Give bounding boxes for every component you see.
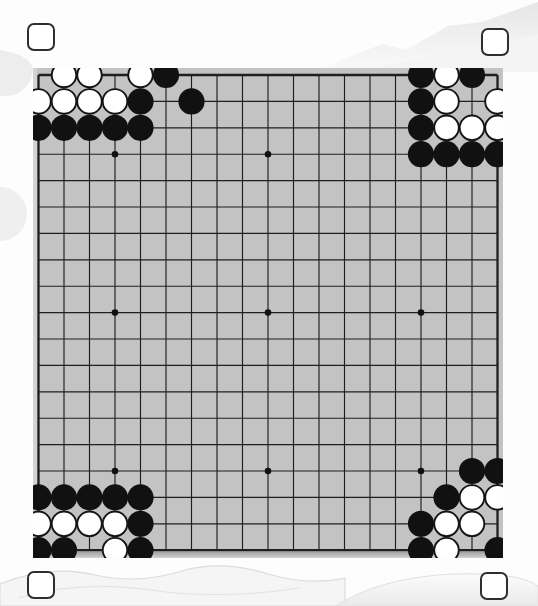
star-point — [418, 468, 425, 475]
stone-black — [408, 141, 434, 167]
stone-black — [127, 511, 153, 537]
stone-black — [76, 115, 102, 141]
mountain-wisp-top-left — [0, 50, 33, 96]
star-point — [112, 468, 119, 475]
stone-white — [128, 68, 153, 87]
star-point — [418, 309, 425, 316]
stone-white — [103, 538, 128, 558]
stone-black — [459, 141, 485, 167]
corner-marker-top-right[interactable] — [481, 28, 509, 56]
stone-black — [102, 484, 128, 510]
stone-white — [52, 512, 77, 537]
stone-black — [127, 115, 153, 141]
stone-black — [408, 88, 434, 114]
stone-black — [459, 458, 485, 484]
corner-marker-bottom-left[interactable] — [27, 571, 55, 599]
stone-black — [433, 141, 459, 167]
stone-black — [102, 115, 128, 141]
stone-white — [434, 512, 459, 537]
stone-white — [103, 512, 128, 537]
stone-white — [33, 512, 51, 537]
stone-white — [460, 512, 485, 537]
stone-white — [77, 68, 102, 87]
star-point — [112, 309, 119, 316]
go-board[interactable] — [33, 68, 503, 558]
app-window — [0, 0, 538, 606]
star-point — [112, 151, 119, 158]
star-point — [265, 468, 272, 475]
stone-white — [434, 89, 459, 114]
stone-white — [485, 89, 503, 114]
stone-white — [434, 538, 459, 558]
stone-black — [51, 484, 77, 510]
corner-marker-top-left[interactable] — [27, 23, 55, 51]
stone-black — [433, 484, 459, 510]
stone-white — [434, 68, 459, 87]
stone-white — [460, 485, 485, 510]
stone-white — [485, 116, 503, 141]
stone-white — [485, 485, 503, 510]
star-point — [265, 151, 272, 158]
stone-white — [460, 116, 485, 141]
star-point — [265, 309, 272, 316]
stone-white — [52, 89, 77, 114]
stone-white — [77, 512, 102, 537]
stone-white — [77, 89, 102, 114]
stone-black — [76, 484, 102, 510]
stone-black — [408, 115, 434, 141]
stone-white — [103, 89, 128, 114]
stone-white — [33, 89, 51, 114]
mountain-wisp-left — [0, 187, 27, 241]
stone-black — [408, 511, 434, 537]
stone-black — [127, 484, 153, 510]
stone-black — [178, 88, 204, 114]
stone-black — [127, 88, 153, 114]
stone-black — [51, 115, 77, 141]
stone-white — [434, 116, 459, 141]
stone-white — [52, 68, 77, 87]
corner-marker-bottom-right[interactable] — [480, 572, 508, 600]
